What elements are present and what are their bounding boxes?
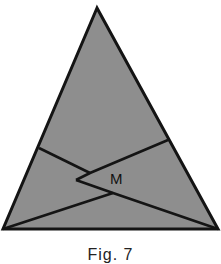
point-label-m: M bbox=[110, 170, 123, 187]
figure-caption: Fig. 7 bbox=[0, 246, 221, 264]
outer-triangle bbox=[3, 8, 218, 229]
